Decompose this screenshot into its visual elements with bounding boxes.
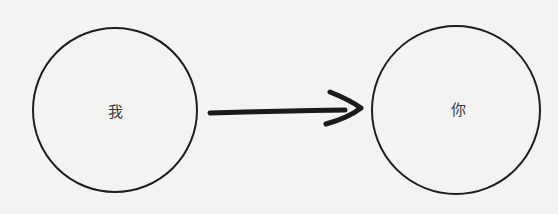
diagram-canvas: 我 你 bbox=[0, 0, 558, 214]
diagram-graphics bbox=[0, 0, 558, 214]
node-you-label: 你 bbox=[451, 98, 466, 119]
arrow-icon bbox=[210, 92, 361, 124]
node-me-label: 我 bbox=[108, 100, 123, 121]
